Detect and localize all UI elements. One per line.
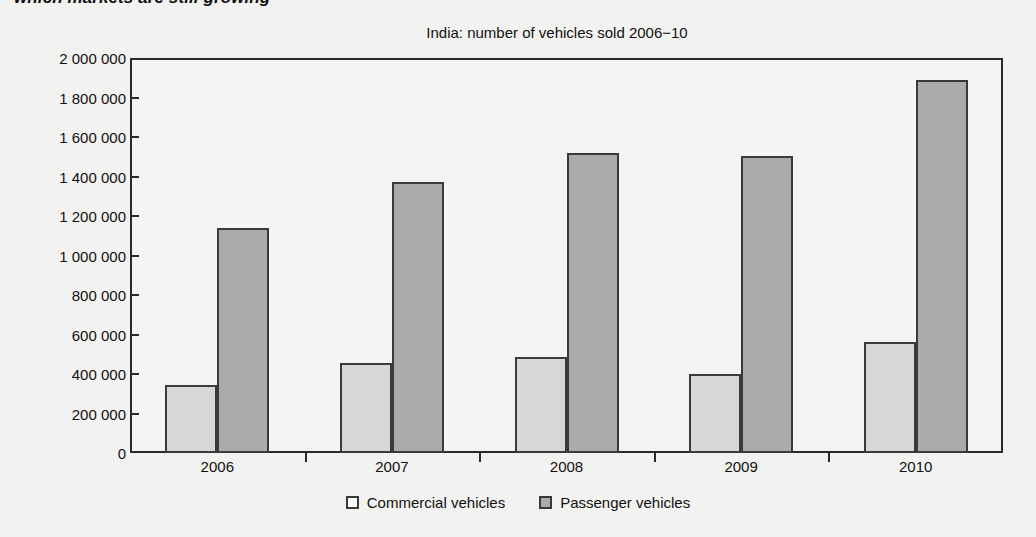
- y-axis-tick-label: 1 000 000: [8, 247, 126, 264]
- bar-2009-commercial: [689, 374, 741, 453]
- y-axis-tick-mark: [130, 373, 139, 375]
- y-axis-tick-mark: [130, 136, 139, 138]
- bar-2007-passenger: [392, 182, 444, 453]
- x-axis-category-label: 2008: [550, 458, 583, 475]
- x-axis-separator-tick: [654, 453, 656, 462]
- bar-2007-commercial: [340, 363, 392, 453]
- x-axis-separator-tick: [305, 453, 307, 462]
- y-axis-tick-label: 200 000: [8, 405, 126, 422]
- chart-title: India: number of vehicles sold 2006−10: [0, 24, 1036, 41]
- y-axis-tick-mark: [130, 334, 139, 336]
- legend-swatch-icon: [539, 496, 552, 509]
- legend-swatch-icon: [346, 496, 359, 509]
- y-axis-tick-label: 1 800 000: [8, 89, 126, 106]
- y-axis-tick-label: 1 400 000: [8, 168, 126, 185]
- y-axis-tick-mark: [130, 97, 139, 99]
- y-axis-tick-mark: [130, 255, 139, 257]
- y-axis: 0200 000400 000600 000800 0001 000 0001 …: [0, 0, 126, 537]
- chart-legend: Commercial vehiclesPassenger vehicles: [0, 494, 1036, 511]
- y-axis-tick-label: 800 000: [8, 287, 126, 304]
- y-axis-tick-mark: [130, 176, 139, 178]
- y-axis-tick-label: 400 000: [8, 366, 126, 383]
- bar-2010-commercial: [864, 342, 916, 453]
- bar-2006-passenger: [217, 228, 269, 453]
- x-axis-category-label: 2009: [724, 458, 757, 475]
- x-axis-separator-tick: [479, 453, 481, 462]
- x-axis-separator-tick: [828, 453, 830, 462]
- legend-item-passenger: Passenger vehicles: [539, 494, 690, 511]
- bar-2008-passenger: [567, 153, 619, 453]
- y-axis-tick-label: 1 600 000: [8, 129, 126, 146]
- y-axis-tick-mark: [130, 294, 139, 296]
- y-axis-tick-label: 600 000: [8, 326, 126, 343]
- bar-2009-passenger: [741, 156, 793, 453]
- y-axis-tick-label: 1 200 000: [8, 208, 126, 225]
- legend-item-commercial: Commercial vehicles: [346, 494, 505, 511]
- legend-label: Commercial vehicles: [367, 494, 505, 511]
- y-axis-tick-label: 2 000 000: [8, 50, 126, 67]
- x-axis-category-label: 2010: [899, 458, 932, 475]
- x-axis-category-label: 2006: [201, 458, 234, 475]
- y-axis-tick-mark: [130, 413, 139, 415]
- y-axis-tick-mark: [130, 215, 139, 217]
- bar-2010-passenger: [916, 80, 968, 453]
- x-axis-category-label: 2007: [375, 458, 408, 475]
- bar-2008-commercial: [515, 357, 567, 453]
- legend-label: Passenger vehicles: [560, 494, 690, 511]
- y-axis-tick-label: 0: [8, 445, 126, 462]
- bar-2006-commercial: [165, 385, 217, 453]
